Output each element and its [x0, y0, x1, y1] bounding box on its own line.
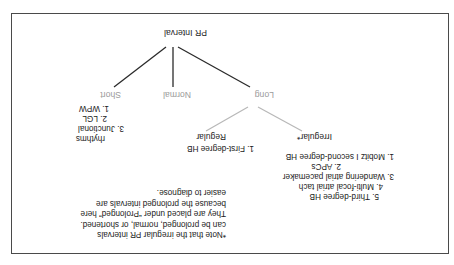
- footnote-line: because the prolonged intervals are: [30, 197, 226, 207]
- connector-long-to-regular: [206, 107, 248, 131]
- list-item: 4. Multi-focal atrial tach: [299, 181, 383, 191]
- list-item: 2. LGL: [82, 113, 107, 123]
- list-item: rhythms: [76, 133, 105, 143]
- list-item: 3. Wandering atrial pacemaker: [283, 171, 394, 181]
- list-item: 1. First-degree HB: [187, 143, 254, 153]
- footnote-line: *Note that the irregular PR intervals: [30, 229, 226, 239]
- group-list-irregular-item-4: 4. Multi-focal atrial tach: [299, 181, 383, 191]
- list-item: 5. Third-degree HB: [310, 191, 379, 201]
- group-list-short-item-2: 2. LGL: [82, 113, 107, 123]
- footnote-line: can be prolonged, normal, or shortened.: [30, 218, 226, 228]
- list-item: 1. Mobitz I second-degree HB: [286, 151, 394, 161]
- group-list-short-item-3-cont: rhythms: [76, 133, 105, 143]
- group-list-regular: 1. First-degree HB: [187, 143, 254, 153]
- connector-long-to-irregular: [258, 107, 302, 131]
- group-heading-irregular: Irregular*: [297, 131, 332, 141]
- footnote-line: easier to diagnose.: [30, 187, 226, 197]
- group-list-irregular-item-5: 5. Third-degree HB: [310, 191, 379, 201]
- list-item: 3. Junctional: [78, 123, 124, 133]
- footnote-block: *Note that the irregular PR intervals ca…: [30, 187, 226, 239]
- group-list-irregular-item-3: 3. Wandering atrial pacemaker: [283, 171, 394, 181]
- group-list-irregular: 1. Mobitz I second-degree HB: [286, 151, 394, 161]
- connector-root-to-long: [178, 47, 250, 87]
- group-list-short-item-3: 3. Junctional: [78, 123, 124, 133]
- branch-label-normal: Normal: [163, 89, 191, 99]
- node-pr-interval: PR Interval: [164, 27, 207, 37]
- list-item: 2. APCs: [311, 161, 341, 171]
- list-item: 1. WPW: [79, 103, 109, 113]
- pr-interval-diagram: PR Interval Long Normal Short Irregular*…: [0, 0, 454, 265]
- footnote-line: They are placed under “Prolonged” here: [30, 208, 226, 218]
- group-list-irregular-item-2: 2. APCs: [311, 161, 341, 171]
- branch-label-short: Short: [100, 89, 121, 99]
- group-list-short-item-1: 1. WPW: [79, 103, 109, 113]
- connector-root-to-short: [114, 47, 166, 87]
- branch-label-long: Long: [255, 89, 274, 99]
- group-heading-regular: Regular: [196, 131, 226, 141]
